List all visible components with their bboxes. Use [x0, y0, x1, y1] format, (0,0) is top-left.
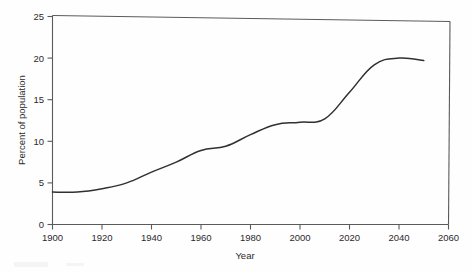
x-tick-label-1980: 1980 [240, 232, 261, 243]
y-tick-label-10: 10 [33, 136, 44, 147]
y-tick-label-5: 5 [39, 177, 44, 188]
x-tick-label-2020: 2020 [339, 232, 360, 243]
y-tick-label-25: 25 [33, 11, 44, 22]
x-tick-label-1920: 1920 [91, 232, 112, 243]
x-tick-labels: 1900 1920 1940 1960 1980 2000 2020 2040 … [42, 232, 459, 243]
x-tick-label-1900: 1900 [42, 232, 63, 243]
x-axis-title: Year [235, 250, 254, 261]
y-tick-label-0: 0 [39, 219, 44, 230]
x-tick-label-2060: 2060 [438, 232, 459, 243]
y-tick-label-20: 20 [33, 53, 44, 64]
x-tick-label-1960: 1960 [190, 232, 211, 243]
x-tick-label-2000: 2000 [289, 232, 310, 243]
line-chart: 0 5 10 15 20 25 1900 1920 1940 1960 1980… [0, 0, 473, 272]
y-axis-title: Percent of population [16, 75, 27, 165]
y-tick-label-15: 15 [33, 94, 44, 105]
x-tick-label-2040: 2040 [388, 232, 409, 243]
x-tick-label-1940: 1940 [141, 232, 162, 243]
